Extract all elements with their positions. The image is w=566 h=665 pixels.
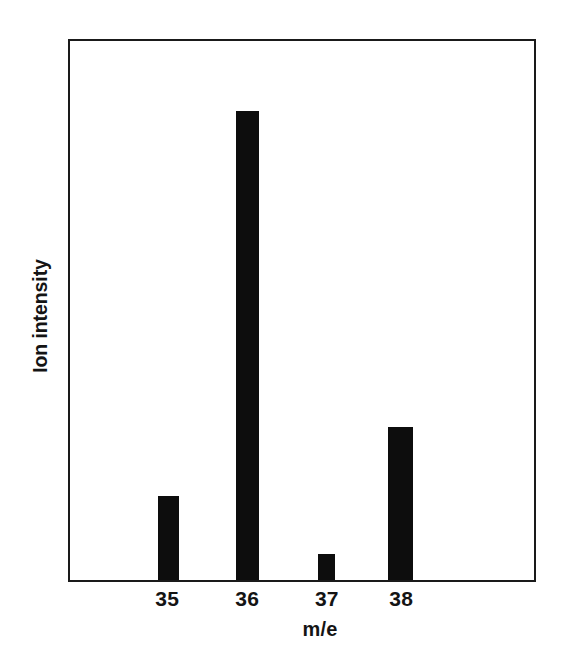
bar-36 xyxy=(236,111,259,580)
bar-38 xyxy=(388,427,413,580)
x-axis-tick-labels: 35 36 37 38 xyxy=(68,586,536,616)
plot-area xyxy=(70,41,534,580)
y-axis-label-container: Ion intensity xyxy=(20,236,60,396)
bar-35 xyxy=(158,496,179,580)
x-tick-label-35: 35 xyxy=(155,586,179,612)
x-tick-label-36: 36 xyxy=(235,586,259,612)
plot-frame xyxy=(68,39,536,582)
y-axis-label: Ion intensity xyxy=(29,259,52,373)
x-tick-label-38: 38 xyxy=(389,586,413,612)
mass-spectrum-figure: Ion intensity 35 36 37 38 m/e xyxy=(0,0,566,665)
x-tick-label-37: 37 xyxy=(315,586,339,612)
bar-37 xyxy=(318,554,336,580)
x-axis-label-container: m/e xyxy=(0,618,566,641)
x-axis-label: m/e xyxy=(302,618,337,641)
